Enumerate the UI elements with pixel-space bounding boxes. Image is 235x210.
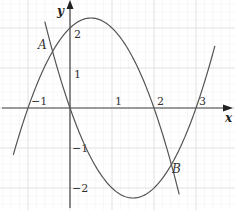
- x-tick-label: 2: [157, 95, 164, 108]
- point-label-b: B: [171, 162, 181, 176]
- x-tick-label: −1: [31, 95, 47, 108]
- y-tick-label: 2: [74, 28, 81, 41]
- y-tick-label: 1: [74, 68, 81, 81]
- graph-plot: x y −112321−1−2 A B: [0, 0, 235, 210]
- y-axis-arrow-icon: [67, 0, 74, 9]
- x-axis-label: x: [224, 111, 233, 125]
- x-tick-label: 1: [115, 95, 122, 108]
- point-label-a: A: [37, 38, 47, 52]
- y-axis-label: y: [56, 4, 65, 18]
- y-tick-label: −2: [72, 182, 88, 195]
